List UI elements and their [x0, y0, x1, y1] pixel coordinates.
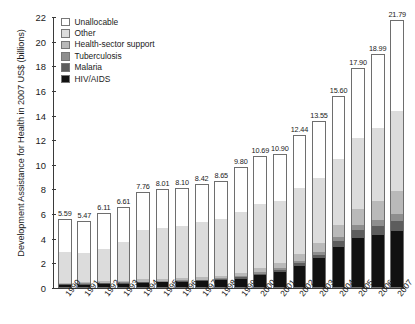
bar-value-label: 17.90	[347, 58, 369, 67]
y-axis-tick	[52, 288, 56, 289]
bar-segment-unallocable	[196, 185, 208, 222]
legend-item-label: HIV/AIDS	[75, 75, 111, 84]
legend-swatch-icon	[61, 41, 70, 50]
y-axis-tick-label: 6	[41, 209, 46, 220]
bar-segment-malaria	[391, 221, 403, 231]
legend-swatch-icon	[61, 18, 70, 27]
bar-segment-unallocable	[176, 189, 188, 226]
bar-segment-malaria	[372, 226, 384, 235]
bar-value-label: 8.10	[171, 178, 193, 187]
bar-1990[interactable]	[58, 219, 72, 288]
legend-item-label: Unallocable	[75, 18, 119, 27]
bar-2001[interactable]	[273, 154, 287, 288]
bar-value-label: 12.44	[289, 125, 311, 134]
bar-segment-health-sector-support	[294, 254, 306, 261]
legend-swatch-icon	[61, 52, 70, 61]
legend-item-label: Malaria	[75, 63, 102, 72]
bar-segment-unallocable	[274, 155, 286, 201]
bar-segment-other	[333, 159, 345, 225]
bar-segment-unallocable	[78, 222, 90, 253]
bar-segment-other	[196, 222, 208, 277]
bar-segment-unallocable	[118, 208, 130, 242]
bar-segment-unallocable	[313, 122, 325, 178]
bar-value-label: 8.42	[191, 174, 213, 183]
y-axis-tick	[52, 91, 56, 92]
bar-value-label: 9.80	[230, 157, 252, 166]
legend-item-malaria[interactable]: Malaria	[61, 63, 155, 73]
legend-item-label: Other	[75, 29, 96, 38]
bar-segment-unallocable	[294, 136, 306, 189]
y-axis-tick-label: 2	[41, 258, 46, 269]
bar-segment-other	[235, 212, 247, 273]
y-axis-tick	[52, 239, 56, 240]
bar-segment-unallocable	[391, 21, 403, 111]
y-axis-tick-label: 20	[36, 36, 46, 47]
bar-1996[interactable]	[175, 188, 189, 288]
bar-segment-other	[254, 204, 266, 269]
legend-swatch-icon	[61, 63, 70, 72]
y-axis-line	[53, 17, 54, 288]
legend-item-other[interactable]: Other	[61, 28, 155, 38]
bar-segment-hiv-aids	[372, 235, 384, 288]
bar-1992[interactable]	[97, 213, 111, 288]
legend-item-label: Tuberculosis	[75, 52, 122, 61]
bar-segment-other	[59, 252, 71, 282]
bar-2002[interactable]	[293, 135, 307, 288]
bar-value-label: 13.55	[308, 111, 330, 120]
legend-item-tuberculosis[interactable]: Tuberculosis	[61, 51, 155, 61]
bar-2006[interactable]	[371, 54, 385, 288]
y-axis-tick	[52, 42, 56, 43]
bar-segment-other	[157, 228, 169, 279]
y-axis-tick	[52, 263, 56, 264]
y-axis-tick-label: 10	[36, 159, 46, 170]
bar-segment-other	[274, 201, 286, 263]
chart-legend: UnallocableOtherHealth-sector supportTub…	[61, 17, 155, 84]
bar-1995[interactable]	[156, 189, 170, 288]
bar-segment-other	[137, 230, 149, 279]
bar-2004[interactable]	[332, 96, 346, 288]
bar-1993[interactable]	[117, 207, 131, 288]
bar-segment-unallocable	[59, 220, 71, 252]
bar-segment-unallocable	[98, 214, 110, 249]
legend-item-unallocable[interactable]: Unallocable	[61, 17, 155, 27]
bar-value-label: 21.79	[386, 10, 408, 19]
y-axis-tick-label: 14	[36, 110, 46, 121]
bar-segment-other	[176, 226, 188, 278]
bar-segment-health-sector-support	[313, 243, 325, 252]
bar-segment-unallocable	[372, 55, 384, 128]
bar-segment-unallocable	[254, 157, 266, 203]
bar-1998[interactable]	[214, 181, 228, 288]
bar-segment-health-sector-support	[391, 191, 403, 214]
bar-value-label: 6.11	[93, 203, 115, 212]
bar-segment-unallocable	[333, 97, 345, 159]
bar-segment-other	[391, 111, 403, 191]
bar-2005[interactable]	[351, 68, 365, 288]
bar-segment-other	[215, 219, 227, 276]
bar-segment-other	[98, 249, 110, 282]
legend-item-hiv-aids[interactable]: HIV/AIDS	[61, 74, 155, 84]
legend-swatch-icon	[61, 75, 70, 84]
bar-segment-health-sector-support	[333, 225, 345, 237]
bar-2007[interactable]	[390, 20, 404, 288]
y-axis-tick-label: 16	[36, 85, 46, 96]
bar-2000[interactable]	[253, 156, 267, 288]
bar-segment-other	[313, 178, 325, 243]
bar-value-label: 6.61	[113, 197, 135, 206]
legend-item-health-sector-support[interactable]: Health-sector support	[61, 40, 155, 50]
bar-1994[interactable]	[136, 192, 150, 288]
legend-swatch-icon	[61, 29, 70, 38]
y-axis-tick	[52, 17, 56, 18]
bar-1999[interactable]	[234, 167, 248, 288]
y-axis-tick-label: 0	[41, 283, 46, 294]
bar-2003[interactable]	[312, 121, 326, 288]
bar-segment-malaria	[352, 230, 364, 238]
bar-value-label: 15.60	[328, 86, 350, 95]
bar-segment-tuberculosis	[391, 214, 403, 221]
bar-1991[interactable]	[77, 221, 91, 288]
bar-1997[interactable]	[195, 184, 209, 288]
bar-segment-hiv-aids	[391, 231, 403, 287]
bar-segment-other	[352, 138, 364, 209]
bar-value-label: 5.47	[73, 211, 95, 220]
bar-segment-other	[294, 188, 306, 254]
